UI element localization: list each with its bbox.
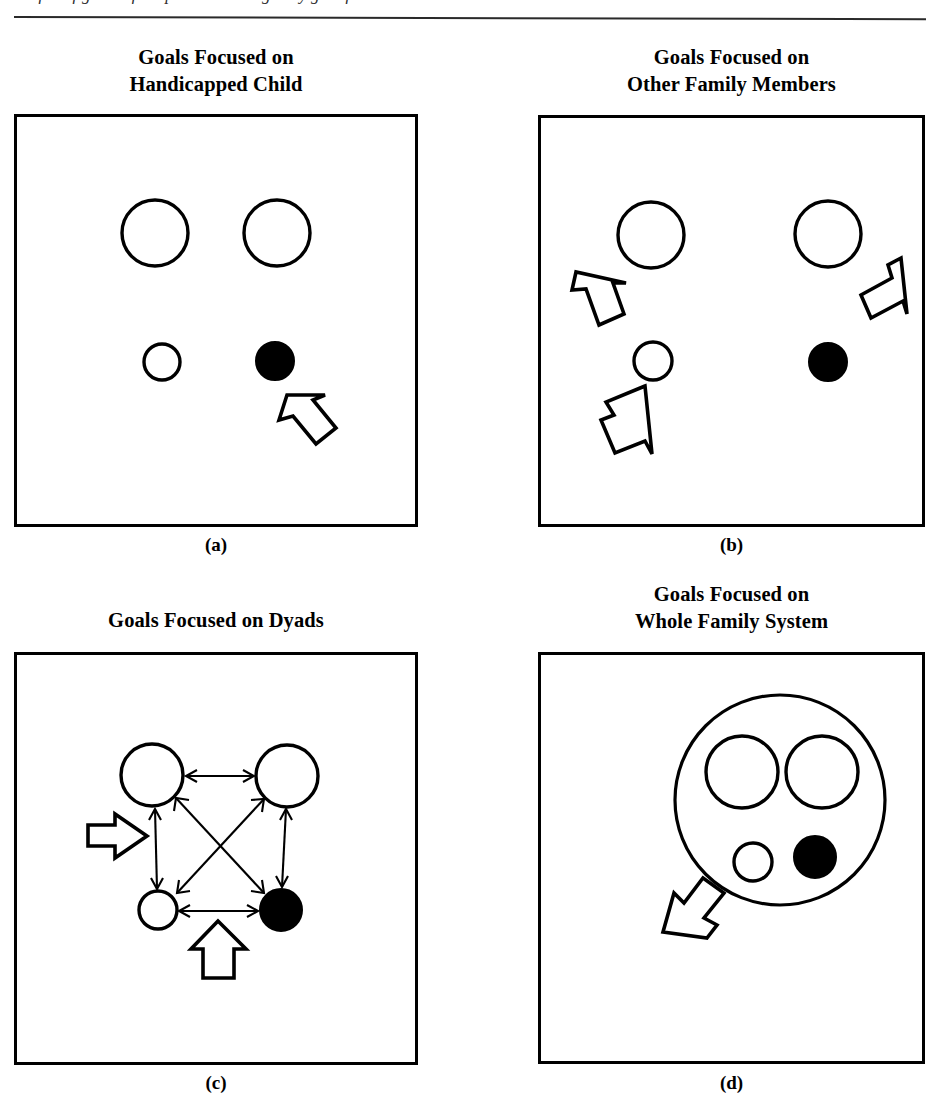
panel-a-title: Goals Focused on Handicapped Child [14, 44, 418, 98]
panel-c-title: Goals Focused on Dyads [14, 607, 418, 634]
figure-page: of the figures of chapter are arranged b… [0, 0, 940, 1109]
panel-c-box [14, 652, 418, 1065]
panel-c-caption: (c) [14, 1072, 418, 1094]
panel-d-box [538, 652, 925, 1064]
panel-a-caption: (a) [14, 534, 418, 556]
panel-b-box [538, 115, 925, 527]
panel-b-caption: (b) [538, 534, 925, 556]
running-head-text: of the figures of chapter are arranged b… [30, 0, 381, 5]
panel-d-caption: (d) [538, 1072, 925, 1094]
panel-b-title: Goals Focused on Other Family Members [538, 44, 925, 98]
running-head-clip: of the figures of chapter are arranged b… [0, 0, 940, 14]
panel-d-title: Goals Focused on Whole Family System [538, 581, 925, 635]
header-rule [14, 16, 926, 20]
panel-a-box [14, 114, 418, 527]
